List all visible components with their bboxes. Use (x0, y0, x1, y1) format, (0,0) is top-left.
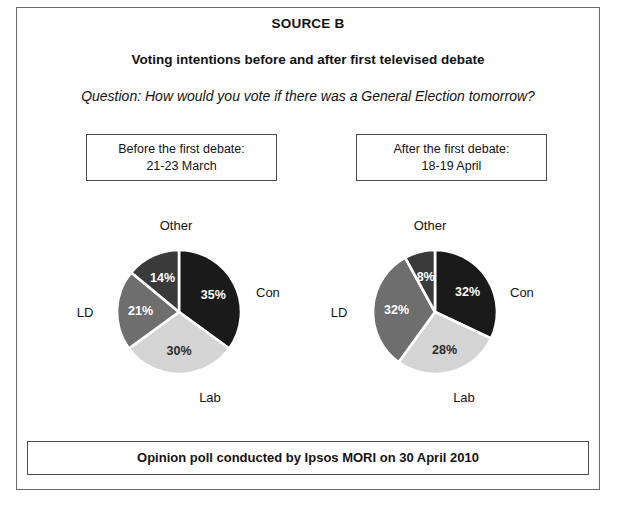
pie-value-lab: 28% (432, 343, 457, 357)
pie-after-label-ld: LD (331, 305, 348, 320)
caption-box-before: Before the first debate: 21-23 March (86, 134, 277, 181)
question-label: Question: (81, 88, 141, 104)
pie-value-ld: 21% (128, 304, 153, 318)
chart-subtitle: Voting intentions before and after first… (16, 52, 600, 67)
pie-value-ld: 32% (384, 303, 409, 317)
pie-after-label-lab: Lab (453, 390, 475, 405)
caption-before-line2: 21-23 March (87, 158, 276, 175)
page-title: SOURCE B (16, 16, 600, 31)
caption-after-line2: 18-19 April (357, 158, 546, 175)
pie-before-svg: 35%30%21%14% Other LD Lab Con (40, 212, 320, 412)
pie-value-other: 8% (417, 270, 435, 284)
caption-box-after: After the first debate: 18-19 April (356, 134, 547, 181)
pie-value-other: 14% (150, 271, 175, 285)
question-line: Question: How would you vote if there wa… (16, 88, 600, 104)
pie-value-con: 32% (455, 285, 480, 299)
pie-after-label-con: Con (510, 285, 534, 300)
pie-before-label-ld: LD (77, 305, 94, 320)
pie-chart-after: 32%28%32%8% Other LD Lab Con (296, 212, 576, 412)
pie-value-lab: 30% (166, 344, 191, 358)
pie-before-label-con: Con (256, 285, 280, 300)
caption-before-line1: Before the first debate: (87, 141, 276, 158)
pie-after-label-other: Other (414, 218, 447, 233)
pie-before-label-other: Other (160, 218, 193, 233)
pie-value-con: 35% (201, 288, 226, 302)
question-text: How would you vote if there was a Genera… (141, 88, 535, 104)
source-b-page: SOURCE B Voting intentions before and af… (0, 0, 622, 505)
pie-before-label-lab: Lab (199, 390, 221, 405)
pie-after-svg: 32%28%32%8% Other LD Lab Con (296, 212, 576, 412)
pie-chart-before: 35%30%21%14% Other LD Lab Con (40, 212, 320, 412)
footer-attribution: Opinion poll conducted by Ipsos MORI on … (27, 441, 589, 475)
caption-after-line1: After the first debate: (357, 141, 546, 158)
